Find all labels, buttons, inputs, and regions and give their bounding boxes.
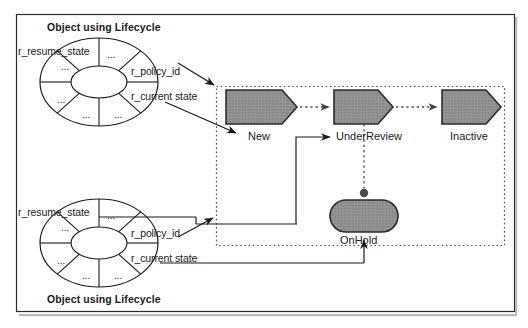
object-bottom-title: Object using Lifecycle [47, 294, 161, 305]
segment-placeholder: ... [61, 62, 69, 72]
segment-placeholder: ... [57, 95, 65, 105]
figure-canvas: Object using Lifecycle ... ... ... ... .… [0, 0, 528, 328]
link-top-policy-to-boundary [178, 63, 214, 85]
segment-placeholder: ... [107, 211, 115, 221]
object-bottom-attr-resume-state: r_resume_state [18, 207, 90, 218]
state-underreview-shape [334, 90, 393, 124]
segment-placeholder: ... [57, 256, 65, 266]
object-bottom-attr-policy-id: r_policy_id [131, 228, 180, 239]
state-onhold-shape [330, 200, 398, 232]
object-top-title: Object using Lifecycle [47, 22, 161, 33]
object-top-attr-policy-id: r_policy_id [131, 66, 180, 77]
segment-placeholder: ... [61, 223, 69, 233]
segment-placeholder: ... [114, 271, 122, 281]
state-label-underreview: UnderReview [336, 131, 402, 142]
state-label-inactive: Inactive [450, 131, 488, 142]
state-inactive-shape [442, 90, 501, 124]
segment-placeholder: ... [82, 110, 90, 120]
state-label-new: New [248, 131, 270, 142]
object-top-attr-resume-state: r_resume_state [18, 46, 90, 57]
state-label-onhold: OnHold [340, 235, 377, 246]
object-bottom-attr-current-state: r_current state [131, 253, 197, 264]
segment-placeholder: ... [107, 50, 115, 60]
segment-placeholder: ... [82, 271, 90, 281]
object-top-attr-current-state: r_current state [131, 91, 197, 102]
segment-placeholder: ... [114, 110, 122, 120]
state-new-shape [226, 90, 297, 124]
